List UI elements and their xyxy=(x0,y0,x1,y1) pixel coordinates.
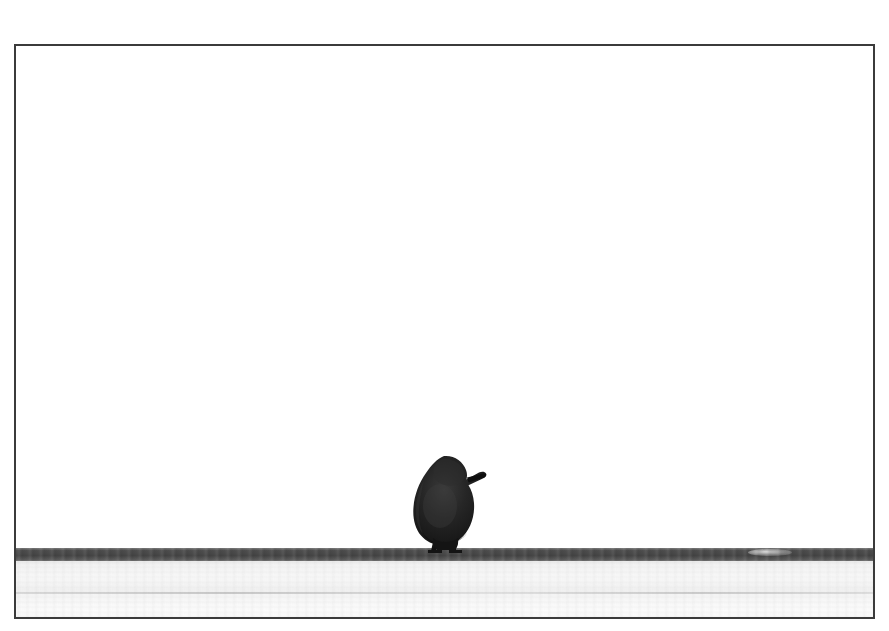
bird-silhouette xyxy=(400,450,496,554)
ledge-region xyxy=(16,548,873,617)
photograph-canvas xyxy=(16,46,873,617)
page-margin xyxy=(0,0,889,44)
page-margin-bottom xyxy=(0,619,889,631)
bird-breast-highlight xyxy=(423,484,457,528)
photograph-frame xyxy=(14,44,875,619)
ledge-chip-highlight xyxy=(748,549,792,556)
ledge-surface xyxy=(16,561,873,617)
screenshot-root xyxy=(0,0,889,631)
ledge-seam-line xyxy=(16,592,873,594)
